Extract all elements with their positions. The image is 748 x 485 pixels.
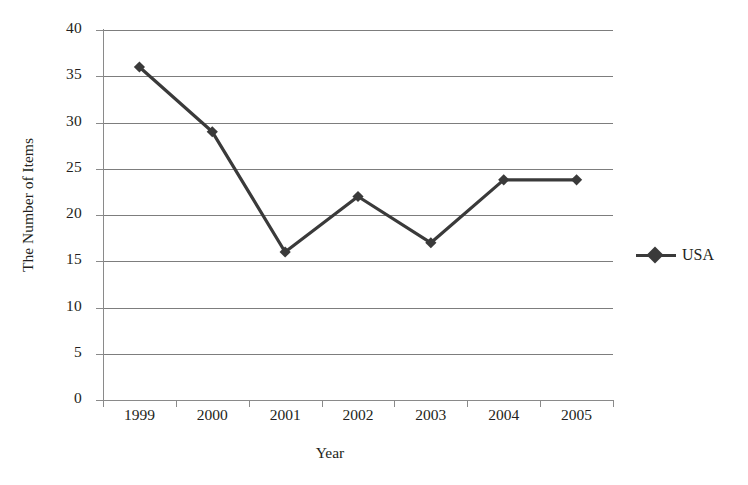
y-axis-line — [103, 29, 104, 401]
legend-swatch-usa — [636, 248, 676, 262]
x-axis-tick — [613, 400, 614, 407]
y-axis-tick-label: 30 — [42, 112, 82, 130]
x-axis-tick-label: 2000 — [177, 406, 247, 424]
gridline — [103, 76, 613, 77]
x-axis-tick-label: 2001 — [250, 406, 320, 424]
y-axis-tick — [96, 261, 103, 262]
y-axis-tick-label: 35 — [42, 65, 82, 83]
y-axis-tick-label: 10 — [42, 297, 82, 315]
gridline — [103, 30, 613, 31]
plot-area — [103, 30, 613, 400]
y-axis-tick — [96, 308, 103, 309]
gridline — [103, 261, 613, 262]
y-axis-tick — [96, 400, 103, 401]
y-axis-title: The Number of Items — [19, 40, 37, 370]
x-axis-title: Year — [0, 444, 660, 462]
x-axis-tick-label: 2003 — [396, 406, 466, 424]
y-axis-tick-label: 20 — [42, 204, 82, 222]
gridline — [103, 308, 613, 309]
x-axis-tick-label: 2005 — [542, 406, 612, 424]
x-axis-tick-label: 2004 — [469, 406, 539, 424]
chart-legend: USA — [636, 246, 714, 264]
y-axis-tick-label: 0 — [42, 389, 82, 407]
gridline — [103, 169, 613, 170]
gridline — [103, 215, 613, 216]
y-axis-tick — [96, 123, 103, 124]
x-axis-tick-label: 1999 — [104, 406, 174, 424]
y-axis-tick-label: 5 — [42, 343, 82, 361]
y-axis-tick — [96, 169, 103, 170]
gridline — [103, 123, 613, 124]
diamond-marker-icon — [647, 247, 664, 264]
legend-label-usa: USA — [678, 246, 714, 264]
y-axis-tick — [96, 76, 103, 77]
x-axis-tick-label: 2002 — [323, 406, 393, 424]
gridline — [103, 354, 613, 355]
y-axis-tick-label: 25 — [42, 158, 82, 176]
gridline — [103, 400, 613, 401]
y-axis-tick — [96, 30, 103, 31]
y-axis-tick — [96, 354, 103, 355]
y-axis-tick-label: 15 — [42, 250, 82, 268]
y-axis-tick-label: 40 — [42, 19, 82, 37]
y-axis-tick — [96, 215, 103, 216]
line-chart: 0510152025303540 19992000200120022003200… — [0, 0, 748, 485]
